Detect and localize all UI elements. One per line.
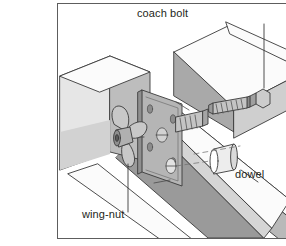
label-coach-bolt: coach bolt — [137, 7, 188, 19]
dowel-far-end — [231, 144, 238, 170]
joint-assembly-illustration — [58, 4, 286, 238]
body-line: d (but — [0, 58, 44, 70]
body-line: sitively — [0, 179, 44, 191]
label-wing-nut: wing-nut — [82, 208, 124, 220]
body-paragraph-3: sitively nal wn — [0, 179, 44, 215]
body-paragraph-1: d (but base is ted parts — [0, 58, 44, 94]
wing-nut-bolt-end — [115, 135, 118, 142]
label-dowel: dowel — [235, 168, 264, 180]
coach-bolt-head — [256, 89, 270, 108]
dowel-near-end — [210, 149, 218, 173]
coach-bolt-head-face — [250, 93, 256, 107]
body-line: low — [0, 143, 44, 155]
paragraph-gap — [0, 167, 44, 179]
plate-hole — [147, 143, 152, 151]
body-line: sonable. — [0, 106, 44, 118]
second-bolt-head — [203, 109, 208, 126]
body-paragraph-2: sonable. d s can be low ce while — [0, 106, 44, 166]
body-line: d — [0, 118, 44, 130]
plate-hole — [147, 105, 152, 113]
body-text-column: d (but base is ted parts sonable. d s ca… — [0, 58, 44, 215]
illustration-frame — [57, 3, 286, 239]
body-line: nal — [0, 191, 44, 203]
paragraph-gap — [0, 94, 44, 106]
body-line: wn — [0, 203, 44, 215]
body-line: base is — [0, 70, 44, 82]
body-line: s can be — [0, 130, 44, 142]
page-canvas: d (but base is ted parts sonable. d s ca… — [0, 0, 286, 246]
body-line: ted parts — [0, 82, 44, 94]
plate-hole — [170, 115, 175, 123]
coach-bolt-tip — [209, 103, 213, 114]
body-line: ce while — [0, 155, 44, 167]
